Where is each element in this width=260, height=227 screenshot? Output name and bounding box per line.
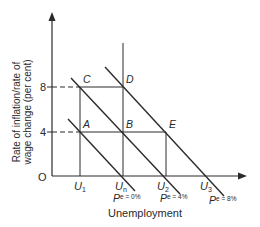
point-c-label: C [83,73,91,85]
x-axis-label: Unemployment [108,207,182,219]
point-b-label: B [126,118,133,130]
y-axis-arrow-icon [49,12,56,21]
point-e-label: E [169,118,177,130]
phillips-curve-diagram: 8 4 O Rate of inflation/rate of wage cha… [0,0,260,227]
x-tick-u1: U1 [74,180,86,193]
y-tick-8: 8 [40,81,46,93]
origin-label: O [38,171,47,183]
y-axis-label-line2: wage change (per cent) [22,59,33,165]
curve-pe-0-label: Pe = 0% [113,192,141,204]
point-a-label: A [82,118,90,130]
curve-pe-8-label: Pe = 8% [209,194,237,206]
x-axis-arrow-icon [238,173,247,180]
curve-pe-4 [71,78,180,194]
curve-pe-4-label: Pe = 4% [160,192,188,204]
y-axis-label-line1: Rate of inflation/rate of [11,61,22,162]
point-d-label: D [126,73,134,85]
y-tick-4: 4 [40,126,46,138]
